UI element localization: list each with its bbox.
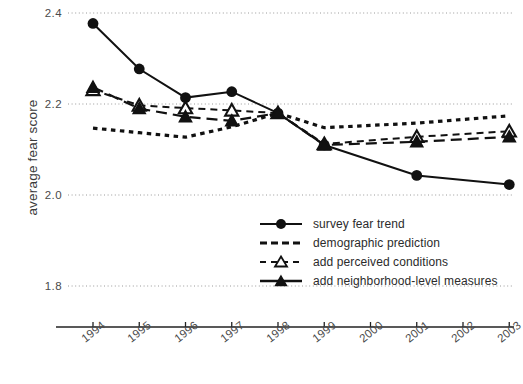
filled-triangle-dashed-line-key [258,273,304,289]
data-point-marker [88,18,99,29]
legend-item: survey fear trend [258,214,498,233]
y-axis-tick-label: 1.8 [28,280,62,292]
series-line [93,90,509,144]
legend-label: survey fear trend [313,217,405,231]
data-point-marker [226,86,237,97]
chart-legend: survey fear trend demographic prediction… [258,214,498,290]
y-axis-title: average fear score [25,48,40,268]
series-line [93,113,509,137]
legend-item: demographic prediction [258,233,498,252]
legend-item: add neighborhood-level measures [258,271,498,290]
y-axis-tick-label: 2.0 [28,189,62,201]
legend-item: add perceived conditions [258,252,498,271]
legend-label: demographic prediction [313,236,440,250]
dotted-line-key [258,235,304,251]
open-triangle-dashed-line-key [258,254,304,270]
data-point-marker [411,170,422,181]
legend-label: add neighborhood-level measures [313,274,498,288]
y-axis-tick-label: 2.4 [28,7,62,19]
data-point-marker [134,64,145,75]
series-line [93,87,509,145]
y-axis-tick-label: 2.2 [28,98,62,110]
data-point-marker [504,179,515,190]
filled-circle-solid-line-key [258,216,304,232]
data-point-marker [87,81,99,92]
legend-label: add perceived conditions [313,255,448,269]
